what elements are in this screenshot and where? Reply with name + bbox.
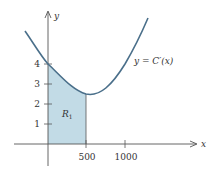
y-tick-label-4: 4 bbox=[34, 59, 40, 69]
y-tick-label-3: 3 bbox=[34, 79, 40, 89]
shaded-region-r1 bbox=[48, 64, 86, 144]
y-tick-label-1: 1 bbox=[34, 119, 40, 129]
x-tick-label-500: 500 bbox=[78, 152, 95, 162]
curve-label: y = C′(x) bbox=[133, 56, 174, 66]
chart: 1 2 3 4 500 1000 x y y = C′(x) R1 bbox=[0, 0, 218, 176]
x-axis-label: x bbox=[201, 139, 206, 149]
y-axis-label: y bbox=[53, 11, 60, 21]
x-tick-label-1000: 1000 bbox=[115, 152, 138, 162]
y-tick-label-2: 2 bbox=[34, 99, 40, 109]
curve-c-prime bbox=[25, 18, 148, 94]
